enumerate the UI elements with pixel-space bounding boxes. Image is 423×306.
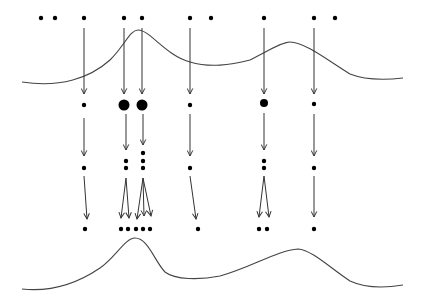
resampled-particle-dot: [141, 159, 145, 163]
propagated-particle-dot: [312, 227, 316, 231]
resampled-particle-dot: [141, 151, 145, 155]
weighted-particle-dot: [137, 100, 148, 111]
propagated-particle-dot: [119, 227, 123, 231]
weighted-particle-dot: [260, 99, 268, 107]
propagated-particle-dot: [148, 227, 152, 231]
propagated-particle-dot: [126, 227, 130, 231]
propagated-particle-dot: [265, 227, 269, 231]
top-particle-dot: [312, 16, 316, 20]
top-particle-dot: [209, 16, 213, 20]
propagated-particle-dot: [257, 227, 261, 231]
resampled-particle-dot: [262, 166, 266, 170]
top-particle-dot: [333, 16, 337, 20]
resampled-particle-dot: [141, 166, 145, 170]
propagated-particle-dot: [196, 227, 200, 231]
resampled-particle-dot: [312, 166, 316, 170]
top-particle-dot: [140, 16, 144, 20]
top-particle-dot: [82, 16, 86, 20]
propagated-particle-dot: [141, 227, 145, 231]
weighted-particle-dot: [188, 103, 192, 107]
resampled-particle-dot: [124, 166, 128, 170]
weighted-particle-dot: [82, 103, 86, 107]
weighted-particle-dot: [312, 102, 316, 106]
resampled-particle-dot: [82, 166, 86, 170]
propagated-particle-dot: [83, 227, 87, 231]
particle-resampling-diagram: [0, 0, 423, 306]
top-particle-dot: [262, 16, 266, 20]
top-particle-dot: [122, 16, 126, 20]
top-particle-dot: [39, 16, 43, 20]
resampled-particle-dot: [188, 166, 192, 170]
background: [0, 0, 423, 306]
resampled-particle-dot: [124, 159, 128, 163]
weighted-particle-dot: [119, 100, 130, 111]
propagated-particle-dot: [134, 227, 138, 231]
top-particle-dot: [53, 16, 57, 20]
resampled-particle-dot: [262, 159, 266, 163]
top-particle-dot: [188, 16, 192, 20]
